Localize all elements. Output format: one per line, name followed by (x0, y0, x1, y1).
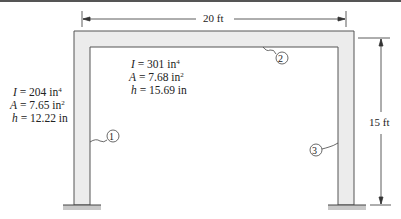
column-A-value: 7.65 (29, 99, 49, 111)
column-h-value: 12.22 (30, 112, 56, 124)
member-label-2: 2 (278, 52, 283, 65)
equals: = (18, 112, 30, 124)
symbol-A: A (129, 71, 136, 83)
equals: = (17, 86, 29, 98)
beam-I-value: 301 (147, 58, 164, 70)
member-label-1: 1 (109, 130, 114, 143)
right-support (328, 205, 366, 210)
equals: = (17, 99, 29, 111)
beam-h-value: 15.69 (149, 84, 175, 96)
beam-A-value: 7.68 (148, 71, 168, 83)
beam-A-exp: 2 (180, 71, 184, 79)
column-I-unit: in (49, 86, 58, 98)
beam-I-exp: 4 (176, 58, 180, 66)
member-tag-2 (263, 47, 288, 64)
height-label: 15 ft (369, 116, 389, 129)
member-label-3: 3 (312, 144, 317, 157)
column-h-unit: in (59, 112, 68, 124)
beam-h-unit: in (178, 84, 187, 96)
symbol-A: A (10, 99, 17, 111)
column-A-exp: 2 (61, 99, 65, 107)
beam-I-unit: in (167, 58, 176, 70)
equals: = (135, 58, 147, 70)
span-label: 20 ft (203, 12, 223, 25)
frame-diagram: 1 2 3 20 ft 15 ft I = 301 in4 A = 7.68 i… (0, 0, 401, 219)
column-I-value: 204 (29, 86, 46, 98)
beam-A-unit: in (171, 71, 180, 83)
equals: = (136, 71, 148, 83)
column-A-unit: in (52, 99, 61, 111)
column-properties: I = 204 in4 A = 7.65 in2 h = 12.22 in (10, 86, 68, 125)
equals: = (137, 84, 149, 96)
left-support (63, 205, 101, 210)
member-tag-1 (90, 130, 119, 142)
column-I-exp: 4 (58, 86, 62, 94)
beam-properties: I = 301 in4 A = 7.68 in2 h = 15.69 in (129, 58, 187, 97)
frame-outline (74, 31, 354, 205)
